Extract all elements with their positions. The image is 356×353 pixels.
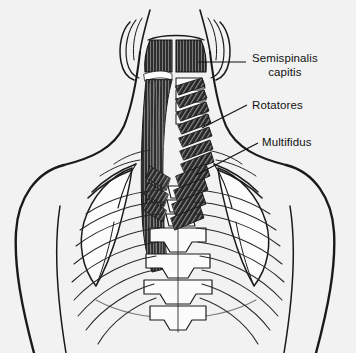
label-semispinalis-capitis-line1: Semispinalis <box>252 52 318 66</box>
label-semispinalis-capitis: Semispinalis capitis <box>252 52 318 79</box>
label-multifidus: Multifidus <box>262 136 312 150</box>
label-multifidus-line1: Multifidus <box>262 136 312 150</box>
label-rotatores-line1: Rotatores <box>252 99 303 113</box>
anatomy-figure: Semispinalis capitis Rotatores Multifidu… <box>0 0 356 353</box>
label-rotatores: Rotatores <box>252 99 303 113</box>
label-semispinalis-capitis-line2: capitis <box>252 66 318 80</box>
